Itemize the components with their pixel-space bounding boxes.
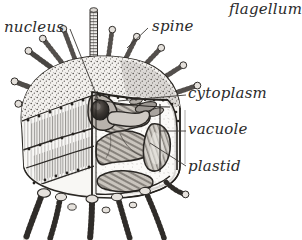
label-plastid: plastid <box>188 159 241 174</box>
leg-joint <box>68 202 137 213</box>
illustration-page: nucleus spine flagellum cytoplasm vacuol… <box>0 0 302 240</box>
basal-leg <box>166 182 189 198</box>
leader-spine <box>127 28 148 48</box>
basal-leg <box>86 195 98 239</box>
label-nucleus: nucleus <box>4 20 64 35</box>
basal-leg <box>111 193 130 239</box>
label-spine: spine <box>152 19 194 34</box>
basal-leg <box>50 193 67 239</box>
cell-illustration <box>0 0 302 240</box>
label-vacuole: vacuole <box>188 122 248 137</box>
cell-body <box>10 45 195 200</box>
label-flagellum: flagellum <box>229 2 302 17</box>
label-cytoplasm: cytoplasm <box>188 86 267 101</box>
basal-leg <box>26 189 51 238</box>
